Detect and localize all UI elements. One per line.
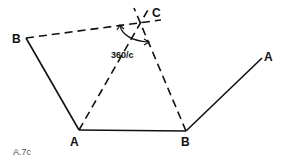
label-a-right: A [264, 50, 273, 64]
polygon-rotation-diagram: B A B A C 360/c A.7c [0, 0, 283, 166]
label-c: C [152, 6, 161, 20]
label-b-left: B [12, 32, 21, 46]
label-b-bottom: B [181, 135, 190, 149]
dashed-a-to-c [79, 8, 149, 130]
dashed-b-to-c [134, 8, 186, 131]
edge-b-to-a-right [186, 58, 262, 131]
edge-b-left-to-a [26, 38, 79, 130]
label-a-bottom: A [70, 135, 79, 149]
angle-label: 360/c [111, 50, 134, 60]
figure-caption: A.7c [13, 147, 32, 157]
edge-a-to-b [79, 130, 186, 131]
